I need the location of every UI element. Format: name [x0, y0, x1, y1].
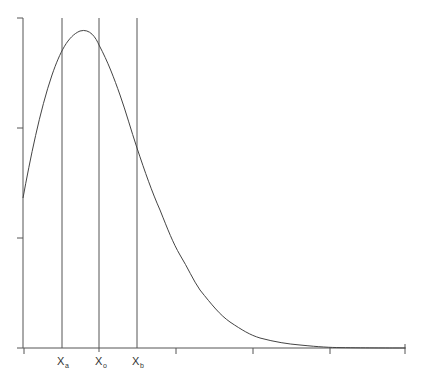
- label-xo-sub: o: [103, 362, 107, 369]
- label-xb-sub: b: [140, 362, 144, 369]
- y-axis: [17, 18, 23, 348]
- label-xa: X: [57, 355, 65, 367]
- x-axis: [17, 344, 406, 354]
- label-xo: X: [95, 355, 103, 367]
- label-xb: X: [132, 355, 140, 367]
- label-xa-sub: a: [65, 362, 69, 369]
- density-chart: X a X o X b: [0, 0, 421, 378]
- density-curve: [23, 30, 405, 348]
